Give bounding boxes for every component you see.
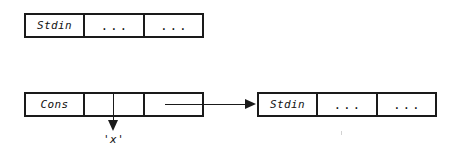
head-pointer-arrowhead xyxy=(108,120,118,131)
tail-pointer-arrowhead xyxy=(245,99,256,109)
cell-label: Stdin xyxy=(270,98,305,111)
cell-dots-2-right: ... xyxy=(378,94,435,115)
tail-pointer-line xyxy=(165,104,246,105)
cell-dots-2-top: ... xyxy=(145,15,202,36)
cell-dots-1-right: ... xyxy=(318,94,378,115)
cell-label: Cons xyxy=(40,98,68,111)
diagram-canvas: Stdin ... ... Cons 'x' Stdin ... xyxy=(0,0,456,156)
cell-label: ... xyxy=(160,19,188,33)
cell-tag-cons: Cons xyxy=(26,94,85,115)
cell-dots-1-top: ... xyxy=(85,15,145,36)
stdin-node-top: Stdin ... ... xyxy=(24,13,204,38)
head-value-label: 'x' xyxy=(103,133,124,146)
stdin-node-right: Stdin ... ... xyxy=(257,92,437,117)
cell-tag-stdin-right: Stdin xyxy=(259,94,318,115)
cell-label: ... xyxy=(393,98,421,112)
cell-cons-head-slot xyxy=(85,94,145,115)
scan-artifact-speck xyxy=(341,131,342,135)
cell-label: ... xyxy=(334,98,362,112)
cell-label: ... xyxy=(101,19,129,33)
cell-tag-stdin-top: Stdin xyxy=(26,15,85,36)
cell-label: Stdin xyxy=(37,19,72,32)
head-pointer-line xyxy=(113,93,114,121)
